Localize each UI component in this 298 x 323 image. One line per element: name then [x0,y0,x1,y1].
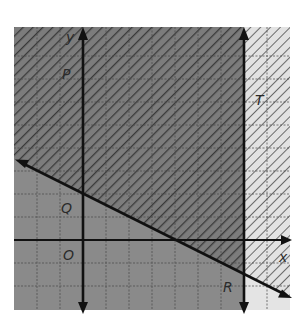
point-label-r: R [223,279,233,295]
y-axis-label: y [65,29,75,45]
origin-label: O [63,247,74,263]
x-axis-label: x [278,249,288,265]
point-label-p: P [62,66,71,82]
point-label-q: Q [61,200,72,216]
point-label-t: T [255,92,265,108]
coordinate-plane: y P T Q O x R [0,0,298,323]
